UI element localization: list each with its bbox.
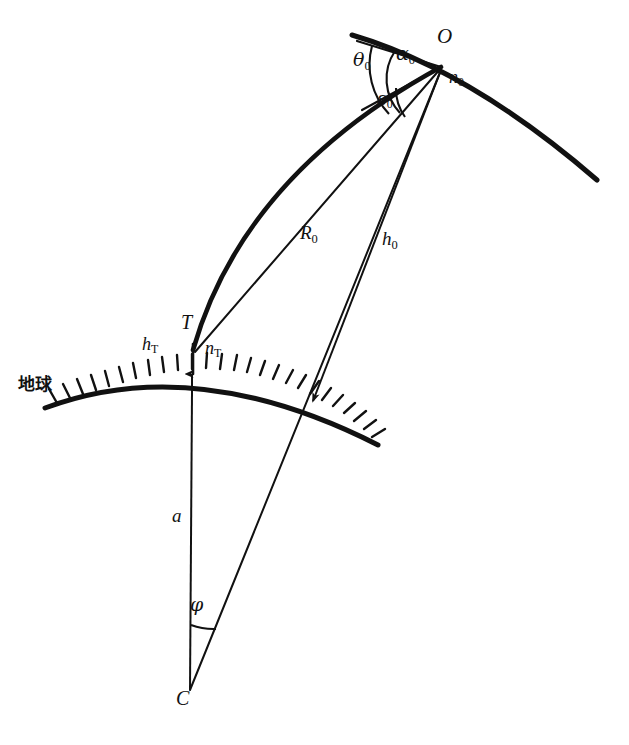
label-alpha0-sub: 0 <box>409 53 415 67</box>
point-label-T: T <box>181 312 192 332</box>
slant-range-R0-line <box>195 68 441 352</box>
label-R0: R0 <box>300 223 318 245</box>
label-theta0-base: θ <box>353 48 364 70</box>
label-R0-base: R <box>300 222 312 243</box>
label-theta0: θ0 <box>353 50 371 72</box>
label-n0-base: n <box>449 67 458 87</box>
label-alpha0: α0 <box>396 44 415 66</box>
label-h0-sub: 0 <box>392 238 398 252</box>
label-hT-base: h <box>142 334 151 354</box>
label-n0-sub: 0 <box>458 75 464 89</box>
radius-a-line <box>190 374 192 690</box>
point-label-C: C <box>176 688 189 708</box>
label-theta0-sub: 0 <box>364 59 370 73</box>
label-h0: h0 <box>382 229 398 251</box>
radius-C-to-O-line <box>190 70 441 690</box>
label-epsilon0: ε0 <box>377 90 393 111</box>
label-a-radius: a <box>172 506 182 525</box>
label-alpha0-base: α <box>396 42 409 64</box>
point-label-O: O <box>437 26 452 47</box>
label-epsilon0-sub: 0 <box>387 97 393 111</box>
label-phi: φ <box>190 595 203 614</box>
label-nT-sub: T <box>214 346 221 360</box>
orbital-geometry-figure: 地球 O T C n0 nT hT h0 R0 a θ0 α0 ε0 φ <box>0 0 629 745</box>
angle-arc-phi <box>191 625 216 629</box>
label-R0-sub: 0 <box>312 232 318 246</box>
label-hT: hT <box>142 335 158 356</box>
diagram-canvas <box>0 0 629 745</box>
label-n0: n0 <box>449 68 464 89</box>
label-nT: nT <box>205 339 221 360</box>
label-h0-base: h <box>382 228 392 249</box>
earth-surface-arc <box>45 387 378 445</box>
label-nT-base: n <box>205 338 214 358</box>
label-hT-sub: T <box>151 342 158 356</box>
label-epsilon0-base: ε <box>377 88 387 109</box>
earth-label: 地球 <box>18 376 52 393</box>
